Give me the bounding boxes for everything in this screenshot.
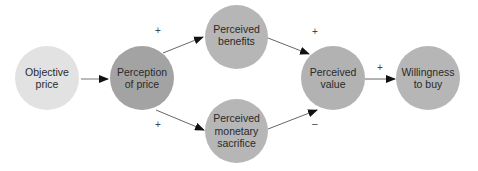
node-label: Perceived — [213, 23, 260, 36]
node-label: benefits — [213, 35, 260, 48]
node-label: to buy — [401, 78, 454, 91]
node-label: of price — [117, 78, 167, 91]
sign-perception-benefits: + — [155, 25, 161, 36]
sign-sacrifice-value: – — [312, 118, 318, 129]
edge-perception-to-sacrifice — [156, 110, 204, 130]
node-perceived-benefits: Perceived benefits — [205, 5, 268, 69]
node-label: monetary — [213, 125, 260, 138]
sign-value-willingness: + — [377, 62, 383, 73]
node-perceived-monetary-sacrifice: Perceived monetary sacrifice — [205, 99, 268, 163]
node-label: Objective — [25, 66, 69, 79]
node-label: value — [310, 78, 357, 91]
sign-benefits-value: + — [312, 26, 318, 37]
node-objective-price: Objective price — [15, 46, 79, 110]
node-label: Willingness — [401, 66, 454, 79]
edge-benefits-to-value — [268, 38, 309, 54]
edge-perception-to-benefits — [163, 37, 203, 53]
node-perception-of-price: Perception of price — [110, 46, 174, 110]
node-label: Perception — [117, 66, 167, 79]
node-label: Perceived — [310, 66, 357, 79]
node-willingness-to-buy: Willingness to buy — [396, 46, 460, 110]
node-label: price — [25, 78, 69, 91]
node-label: Perceived — [213, 112, 260, 125]
node-label: sacrifice — [213, 137, 260, 150]
sign-perception-sacrifice: + — [155, 119, 161, 130]
edge-sacrifice-to-value — [268, 110, 317, 129]
node-perceived-value: Perceived value — [301, 46, 365, 110]
